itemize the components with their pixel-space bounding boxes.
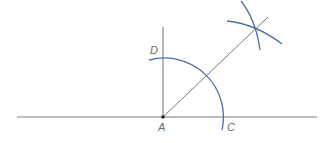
angle-bisector-diagram: D A C — [0, 0, 325, 143]
point-a — [161, 115, 165, 119]
label-c: C — [227, 121, 235, 133]
label-d: D — [150, 44, 158, 56]
bisector-ray — [163, 17, 268, 117]
arc-dc — [149, 58, 223, 130]
arc-from-c — [241, 1, 260, 50]
label-a: A — [157, 121, 165, 133]
